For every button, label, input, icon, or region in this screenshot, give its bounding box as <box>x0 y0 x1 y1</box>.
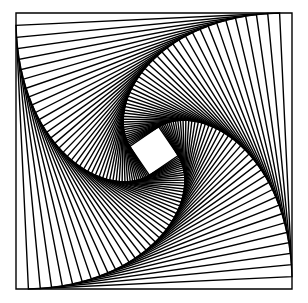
square-outline <box>29 26 279 276</box>
square-outline <box>39 36 269 266</box>
square-outline <box>88 85 221 218</box>
square-outline <box>51 48 257 254</box>
square-outline <box>43 40 265 262</box>
square-outline <box>67 64 241 238</box>
spiral-squares-artwork <box>0 0 308 303</box>
square-outline <box>59 56 249 246</box>
square-outline <box>125 122 183 180</box>
nested-squares-group <box>16 13 292 289</box>
square-outline <box>129 126 179 176</box>
